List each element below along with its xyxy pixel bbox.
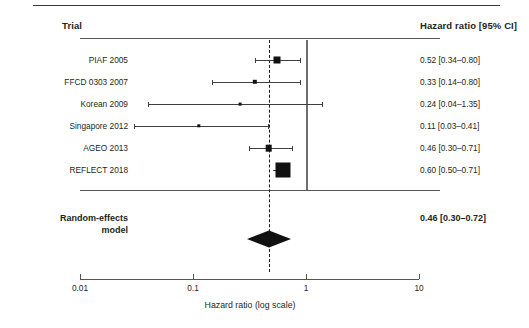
pooled-effect-diamond [247, 230, 291, 248]
point-estimate-marker [274, 57, 281, 64]
top-border-rule [33, 5, 500, 6]
ci-cap-high [300, 80, 301, 85]
forest-plot: Trial Hazard ratio [95% CI] PIAF 2005 0.… [0, 0, 529, 328]
estimate-label: 0.24 [0.04–1.35] [420, 99, 480, 109]
null-effect-line [306, 40, 308, 190]
ci-cap-high [300, 58, 301, 63]
point-estimate-marker [276, 163, 291, 178]
x-axis-tick [306, 274, 307, 279]
summary-label-line1: Random-effects [60, 213, 128, 223]
x-axis-tick-label: 0.1 [187, 283, 199, 293]
x-axis-tick-label: 0.01 [72, 283, 88, 293]
ci-cap-low [255, 58, 256, 63]
x-axis-tick-label: 10 [414, 283, 423, 293]
point-estimate-marker [253, 80, 257, 84]
trial-label: REFLECT 2018 [0, 165, 128, 175]
x-axis-tick-label: 1 [304, 283, 309, 293]
ci-cap-high [268, 124, 269, 129]
diamond-svg [247, 230, 291, 248]
summary-estimate-label: 0.46 [0.30–0.72] [420, 213, 486, 223]
ci-cap-high [292, 146, 293, 151]
summary-label-line2: model [101, 225, 128, 235]
ci-cap-low [212, 80, 213, 85]
x-axis-tick [419, 274, 420, 279]
point-estimate-marker [266, 145, 273, 152]
ci-cap-high [322, 102, 323, 107]
ci-line [148, 104, 322, 105]
trial-label: Korean 2009 [0, 99, 128, 109]
trial-label: FFCD 0303 2007 [0, 77, 128, 87]
trial-label: PIAF 2005 [0, 55, 128, 65]
trial-label: AGEO 2013 [0, 143, 128, 153]
x-axis-title: Hazard ratio (log scale) [205, 300, 296, 310]
ci-cap-low [249, 146, 250, 151]
estimate-label: 0.52 [0.34–0.80] [420, 55, 480, 65]
ci-line [134, 126, 268, 127]
x-axis-tick [80, 274, 81, 279]
estimate-label: 0.11 [0.03–0.41] [420, 121, 479, 131]
x-axis-tick [193, 274, 194, 279]
ci-cap-low [148, 102, 149, 107]
estimate-label: 0.60 [0.50–0.71] [420, 165, 480, 175]
ci-cap-low [134, 124, 135, 129]
header-underline-rule [80, 38, 440, 39]
trial-label: Singapore 2012 [0, 121, 128, 131]
estimate-label: 0.33 [0.14–0.80] [420, 77, 480, 87]
column-header-estimate: Hazard ratio [95% CI] [420, 20, 517, 31]
column-header-trial: Trial [62, 20, 82, 31]
summary-label: Random-effects model [0, 212, 128, 236]
point-estimate-marker [197, 124, 200, 127]
summary-separator-rule [80, 190, 440, 191]
x-axis-line [80, 279, 419, 280]
point-estimate-marker [238, 103, 241, 106]
estimate-label: 0.46 [0.30–0.71] [420, 143, 480, 153]
